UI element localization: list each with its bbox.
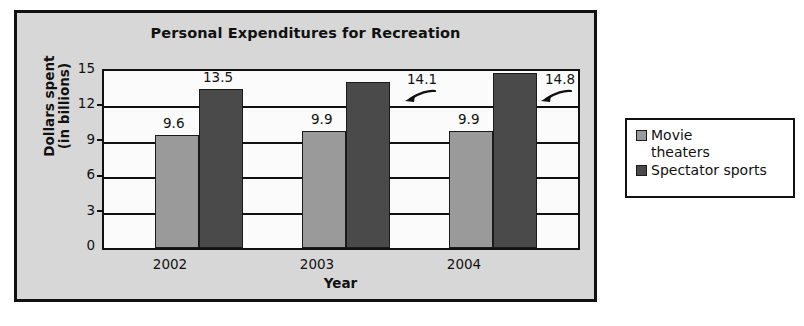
x-tick-label-2004: 2004 — [424, 256, 504, 272]
value-label-2002-spectator-sports: 13.5 — [203, 71, 233, 85]
y-tick-label-15: 15 — [65, 62, 95, 76]
y-tick-label-3: 3 — [65, 204, 95, 218]
annotation-arrow-2004 — [539, 89, 573, 107]
value-label-2003-movie-theaters: 9.9 — [311, 113, 332, 127]
bar-2004-spectator-sports[interactable] — [493, 73, 537, 248]
value-label-2002-movie-theaters: 9.6 — [163, 117, 184, 131]
x-tick-label-2002: 2002 — [130, 256, 210, 272]
bar-2002-movie-theaters[interactable] — [155, 135, 199, 248]
annotation-arrow-2003 — [403, 89, 437, 107]
legend-swatch-light-gray-icon — [636, 130, 647, 141]
legend-item-label-movie-theaters: Movie theaters — [651, 127, 710, 160]
chart-frame: Personal Expenditures for Recreation Dol… — [14, 10, 597, 302]
legend-label-line2: theaters — [651, 144, 710, 161]
chart-title: Personal Expenditures for Recreation — [17, 25, 594, 41]
y-tick-label-6: 6 — [65, 168, 95, 182]
y-tick-label-12: 12 — [65, 97, 95, 111]
value-label-2004-movie-theaters: 9.9 — [458, 113, 479, 127]
y-axis-title-line1: Dollars spent — [41, 56, 57, 157]
legend-item-label-spectator-sports: Spectator sports — [651, 162, 767, 179]
value-label-2003-spectator-sports: 14.1 — [407, 73, 437, 87]
x-axis-title: Year — [17, 275, 594, 291]
legend-label-line1: Movie — [651, 127, 710, 144]
bar-2002-spectator-sports[interactable] — [199, 89, 243, 248]
value-label-2004-spectator-sports: 14.8 — [545, 73, 575, 87]
bar-2003-movie-theaters[interactable] — [302, 131, 346, 248]
chart-legend: Movie theaters Spectator sports — [625, 118, 795, 198]
legend-item-movie-theaters[interactable]: Movie theaters — [636, 127, 785, 160]
bar-2004-movie-theaters[interactable] — [449, 131, 493, 248]
legend-item-spectator-sports[interactable]: Spectator sports — [636, 162, 785, 179]
y-tick-label-9: 9 — [65, 133, 95, 147]
plot-area — [102, 69, 580, 250]
legend-swatch-dark-gray-icon — [636, 165, 647, 176]
y-tick-label-0: 0 — [65, 239, 95, 253]
x-tick-label-2003: 2003 — [277, 256, 357, 272]
bar-2003-spectator-sports[interactable] — [346, 82, 390, 248]
